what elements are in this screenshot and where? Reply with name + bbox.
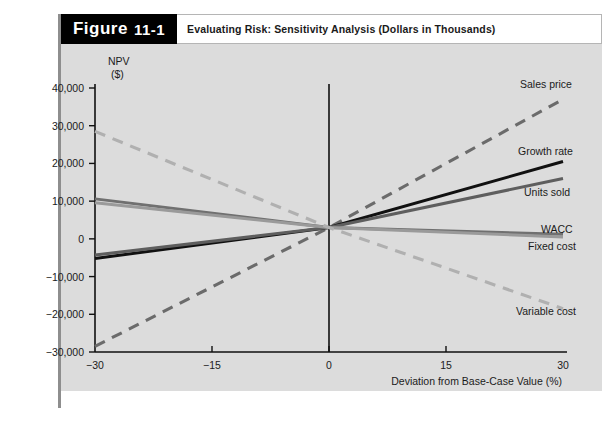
figure-header: Figure 11-1 Evaluating Risk: Sensitivity… bbox=[61, 14, 602, 44]
figure-caption-text: Evaluating Risk: Sensitivity Analysis (D… bbox=[177, 23, 496, 35]
figure-tag-number: 11-1 bbox=[134, 21, 165, 38]
figure-tag-word: Figure bbox=[73, 19, 128, 39]
figure-body-panel bbox=[61, 30, 602, 391]
figure-number-tag: Figure 11-1 bbox=[61, 14, 177, 44]
figure-caption-box: Evaluating Risk: Sensitivity Analysis (D… bbox=[177, 14, 602, 44]
